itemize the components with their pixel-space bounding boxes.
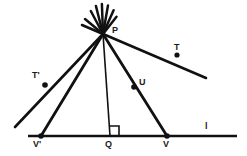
point-label-V-prime: V' bbox=[33, 140, 41, 149]
segment-P-to-V-prime bbox=[41, 34, 103, 136]
line-label-l: l bbox=[205, 122, 208, 131]
point-label-P: P bbox=[112, 26, 118, 35]
point-dot-T bbox=[174, 52, 179, 57]
right-angle-marker bbox=[110, 126, 119, 136]
point-dot-V-prime bbox=[38, 133, 44, 139]
geometry-figure: P T T' U l V' Q V bbox=[0, 0, 247, 156]
point-dot-V bbox=[164, 133, 170, 139]
point-dot-T-prime bbox=[42, 82, 48, 88]
point-label-V: V bbox=[163, 140, 169, 149]
segment-P-to-Q bbox=[103, 34, 110, 136]
point-label-U: U bbox=[139, 78, 146, 87]
tangent-line-through-T-prime bbox=[15, 34, 103, 127]
point-dot-U bbox=[131, 84, 137, 90]
point-label-T: T bbox=[174, 43, 180, 52]
point-label-Q: Q bbox=[105, 140, 112, 149]
point-label-T-prime: T' bbox=[32, 71, 40, 80]
